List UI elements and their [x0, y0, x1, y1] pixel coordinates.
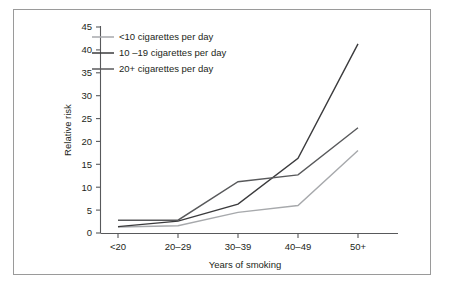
y-axis-title: Relative risk: [62, 104, 73, 156]
legend-item-under-10-per-day: <10 cigarettes per day: [92, 31, 214, 42]
y-tick-label-40: 40: [81, 44, 92, 55]
y-tick-label-35: 35: [81, 67, 92, 78]
y-axis-tick-labels: 0 5 10 15 20 25 30 35 40 45: [81, 21, 92, 238]
series-line-20-plus-per-day: [118, 128, 358, 220]
x-tick-label-30-39: 30–39: [225, 241, 251, 252]
x-tick-label-50plus: 50+: [350, 241, 367, 252]
series-line-under-10-per-day: [118, 151, 358, 227]
y-tick-label-0: 0: [87, 227, 92, 238]
x-axis: <20 20–29 30–39 40–49 50+ Years of smoki…: [101, 234, 399, 271]
y-axis: 0 5 10 15 20 25 30 35 40 45 Relative ris…: [62, 21, 101, 238]
legend-item-20-plus-per-day: 20+ cigarettes per day: [92, 63, 214, 74]
y-tick-label-10: 10: [81, 182, 92, 193]
y-tick-label-20: 20: [81, 136, 92, 147]
figure-container: 0 5 10 15 20 25 30 35 40 45 Relative ris…: [0, 0, 450, 293]
y-tick-label-5: 5: [87, 205, 92, 216]
chart-plot-area: 0 5 10 15 20 25 30 35 40 45 Relative ris…: [0, 0, 450, 293]
y-tick-label-25: 25: [81, 113, 92, 124]
y-tick-label-30: 30: [81, 90, 92, 101]
x-tick-label-under20: <20: [110, 241, 126, 252]
legend-label-under-10-per-day: <10 cigarettes per day: [119, 31, 214, 42]
y-tick-label-15: 15: [81, 159, 92, 170]
x-axis-tick-labels: <20 20–29 30–39 40–49 50+: [110, 241, 367, 252]
x-tick-label-20-29: 20–29: [165, 241, 191, 252]
x-axis-title: Years of smoking: [209, 259, 282, 270]
x-axis-ticks: [118, 234, 358, 239]
legend-label-20-plus-per-day: 20+ cigarettes per day: [119, 63, 214, 74]
x-tick-label-40-49: 40–49: [285, 241, 311, 252]
y-axis-ticks: [96, 27, 101, 233]
legend-item-10-to-19-per-day: 10 –19 cigarettes per day: [92, 47, 226, 58]
legend-label-10-to-19-per-day: 10 –19 cigarettes per day: [119, 47, 226, 58]
y-tick-label-45: 45: [81, 21, 92, 32]
chart-legend: <10 cigarettes per day 10 –19 cigarettes…: [92, 31, 226, 74]
